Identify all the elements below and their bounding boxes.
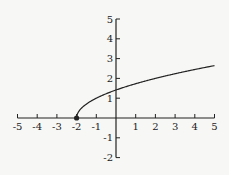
y-tick-label: 2 (107, 73, 113, 84)
x-tick-label: 2 (152, 121, 158, 132)
y-tick-label: 1 (107, 93, 113, 104)
function-plot: -5-4-3-2-11234554321-1-2 (0, 0, 229, 175)
x-tick-label: -4 (32, 121, 42, 132)
graph: -5-4-3-2-11234554321-1-2 (0, 0, 229, 175)
x-tick-label: 4 (192, 121, 198, 132)
x-tick-label: -5 (13, 121, 23, 132)
y-tick-label: -2 (103, 152, 113, 163)
x-tick-label: -1 (91, 121, 101, 132)
y-tick-label: -1 (103, 132, 113, 143)
x-tick-label: 3 (172, 121, 178, 132)
x-tick-label: 1 (133, 121, 139, 132)
sqrt-curve (77, 66, 215, 118)
x-tick-label: 5 (211, 121, 217, 132)
endpoint-dot (74, 115, 79, 120)
y-tick-label: 4 (107, 33, 113, 44)
x-tick-label: -2 (72, 121, 82, 132)
y-tick-label: 5 (107, 14, 113, 25)
x-tick-label: -3 (52, 121, 62, 132)
y-tick-label: 3 (107, 53, 113, 64)
